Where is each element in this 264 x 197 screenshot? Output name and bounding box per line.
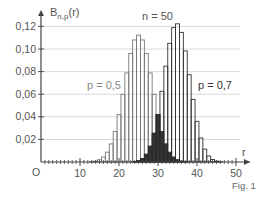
bar — [133, 40, 137, 162]
y-tick-label: 0,04 — [16, 110, 37, 122]
bar — [117, 115, 121, 162]
bar — [176, 24, 180, 162]
series-label-p05: p = 0,5 — [87, 79, 121, 91]
bar — [125, 73, 129, 162]
overlap-bar — [164, 144, 168, 162]
y-tick-label: 0,06 — [16, 88, 37, 100]
bar — [191, 99, 195, 162]
bar — [183, 51, 187, 162]
bar — [144, 54, 148, 162]
bar — [129, 54, 133, 162]
bar — [199, 138, 203, 162]
binomial-distribution-chart: 0,020,040,060,080,100,121020304050 Bn,p(… — [0, 0, 264, 197]
x-tick-label: 20 — [113, 167, 125, 179]
y-tick-label: 0,08 — [16, 65, 37, 77]
x-tick-label: 10 — [74, 167, 86, 179]
overlap-bar — [152, 133, 156, 162]
y-tick-label: 0,02 — [16, 133, 37, 145]
chart-title: n = 50 — [142, 10, 173, 22]
y-tick-label: 0,10 — [16, 43, 37, 55]
bar — [179, 32, 183, 162]
bar — [172, 28, 176, 162]
bars — [90, 24, 223, 162]
overlap-bar — [148, 146, 152, 162]
y-axis-title: Bn,p(r) — [50, 6, 79, 21]
bar — [137, 35, 141, 162]
bar — [109, 144, 113, 162]
figure-label: Fig. 1 — [232, 180, 256, 191]
labels: Bn,p(r) r O n = 50 p = 0,5 p = 0,7 Fig. … — [32, 6, 256, 191]
bar — [113, 131, 117, 162]
bar — [121, 94, 125, 162]
x-axis-arrow-icon — [244, 159, 250, 165]
overlap-bar — [160, 131, 164, 162]
bar — [195, 121, 199, 162]
y-axis-arrow-icon — [38, 10, 44, 16]
overlap-bar — [156, 115, 160, 162]
x-tick-label: 40 — [191, 167, 203, 179]
x-axis-title: r — [242, 146, 246, 158]
bar — [168, 43, 172, 162]
x-tick-label: 50 — [230, 167, 242, 179]
y-tick-label: 0,12 — [16, 20, 37, 32]
x-tick-label: 30 — [152, 167, 164, 179]
origin-label: O — [32, 166, 40, 178]
bar — [187, 75, 191, 162]
series-label-p07: p = 0,7 — [198, 79, 232, 91]
bar — [140, 40, 144, 162]
